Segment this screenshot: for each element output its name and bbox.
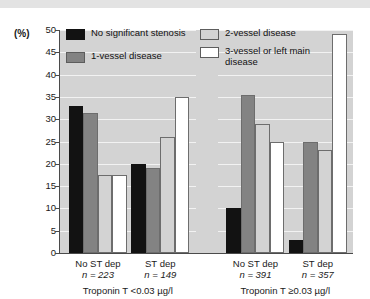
- legend-label: No significant stenosis: [91, 28, 186, 39]
- y-tick-label: 50: [34, 25, 56, 35]
- y-tick-label: 25: [34, 137, 56, 147]
- y-tick-label: 5: [34, 226, 56, 236]
- bar: [255, 124, 270, 253]
- y-tick-mark: [55, 30, 60, 31]
- y-tick-label: 35: [34, 92, 56, 102]
- chart-legend: No significant stenosis2-vessel disease1…: [66, 22, 344, 68]
- legend-label: 3-vessel or left main disease: [225, 46, 344, 67]
- legend-swatch-icon: [66, 52, 85, 63]
- bar: [303, 142, 318, 254]
- y-tick-mark: [55, 142, 60, 143]
- y-axis-tick-labels: 05101520253035404550: [30, 8, 56, 299]
- x-axis-line: [59, 253, 353, 254]
- category-count: n = 149: [115, 269, 205, 280]
- y-tick-mark: [55, 52, 60, 53]
- y-tick-label: 20: [34, 159, 56, 169]
- legend-item: No significant stenosis: [66, 28, 200, 40]
- y-tick-label: 40: [34, 70, 56, 80]
- bar-chart-figure: (%) 05101520253035404550 No ST depn = 22…: [0, 8, 370, 299]
- legend-swatch-icon: [66, 29, 85, 40]
- category-name: ST dep: [115, 258, 205, 269]
- legend-item: 2-vessel disease: [200, 28, 344, 40]
- category-label: ST depn = 357: [273, 258, 363, 280]
- y-tick-mark: [55, 75, 60, 76]
- bar: [318, 150, 333, 253]
- bar: [112, 175, 127, 253]
- bar: [241, 95, 256, 253]
- y-tick-mark: [55, 97, 60, 98]
- category-label: ST depn = 149: [115, 258, 205, 280]
- category-name: ST dep: [273, 258, 363, 269]
- bar: [270, 142, 285, 254]
- legend-swatch-icon: [200, 29, 219, 40]
- legend-swatch-icon: [200, 47, 219, 58]
- y-tick-label: 10: [34, 204, 56, 214]
- y-tick-mark: [55, 119, 60, 120]
- bar: [226, 208, 241, 253]
- bar: [83, 113, 98, 253]
- legend-label: 1-vessel disease: [91, 51, 162, 62]
- y-tick-label: 45: [34, 48, 56, 58]
- y-tick-mark: [55, 164, 60, 165]
- bar: [175, 97, 190, 253]
- y-tick-label: 30: [34, 114, 56, 124]
- category-count: n = 357: [273, 269, 363, 280]
- y-tick-mark: [55, 186, 60, 187]
- bar: [69, 106, 84, 253]
- y-tick-label: 0: [34, 248, 56, 258]
- top-decorative-band: [0, 0, 370, 8]
- bar: [289, 240, 304, 253]
- y-tick-mark: [55, 208, 60, 209]
- y-tick-mark: [55, 253, 60, 254]
- legend-label: 2-vessel disease: [225, 28, 296, 39]
- bar: [98, 175, 113, 253]
- bar: [160, 137, 175, 253]
- y-tick-label: 15: [34, 181, 56, 191]
- legend-item: 1-vessel disease: [66, 51, 200, 63]
- y-tick-mark: [55, 231, 60, 232]
- bar: [146, 168, 161, 253]
- panel-label: Troponin T ≥0.03 µg/l: [205, 285, 365, 296]
- legend-item: 3-vessel or left main disease: [200, 46, 344, 67]
- y-axis-unit-label: (%): [14, 28, 30, 39]
- panel-label: Troponin T <0.03 µg/l: [48, 285, 208, 296]
- bar: [131, 164, 146, 253]
